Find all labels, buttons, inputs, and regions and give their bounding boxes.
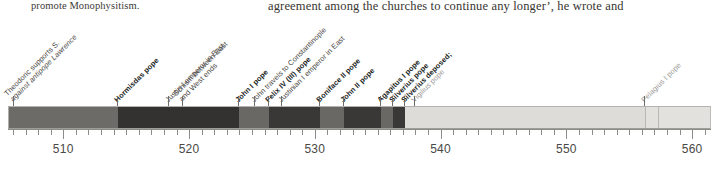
axis-minor-tick (453, 130, 454, 135)
timeline-segment (381, 107, 392, 128)
axis-minor-tick (114, 130, 115, 135)
axis-tick-label: 540 (430, 142, 451, 156)
timeline-segment (344, 107, 382, 128)
timeline-interior-rule (645, 107, 646, 128)
papal-timeline-chart: Theodoric supports S.against antipope La… (0, 0, 719, 171)
event-label-line: Theodoric supports S. (3, 28, 73, 98)
event-leader-line (168, 96, 169, 106)
timeline-segment (239, 107, 269, 128)
axis-minor-tick (604, 130, 605, 135)
axis-minor-tick (642, 130, 643, 135)
timeline-segment (645, 107, 711, 128)
timeline-segment (405, 107, 645, 128)
axis-tick-label: 560 (682, 142, 703, 156)
axis-major-tick (441, 130, 442, 139)
axis-major-tick (315, 130, 316, 139)
axis-minor-tick (491, 130, 492, 135)
axis-minor-tick (403, 130, 404, 135)
axis-minor-tick (327, 130, 328, 135)
event-leader-line (343, 96, 344, 106)
axis-minor-tick (365, 130, 366, 135)
axis-minor-tick (415, 130, 416, 135)
timeline-segment (9, 107, 118, 128)
event-label-line: against antipope Lawrence (9, 34, 79, 104)
event-leader-line (404, 96, 405, 106)
axis-minor-tick (126, 130, 127, 135)
axis-minor-tick (529, 130, 530, 135)
axis-minor-tick (277, 130, 278, 135)
axis-minor-tick (26, 130, 27, 135)
timeline-segment (320, 107, 344, 128)
axis-minor-tick (265, 130, 266, 135)
timeline-segment-band (8, 106, 711, 129)
axis-minor-tick (177, 130, 178, 135)
event-leader-line (380, 96, 381, 106)
axis-minor-tick (202, 130, 203, 135)
event-label-line: Hormisdas pope (113, 57, 161, 105)
axis-minor-tick (302, 130, 303, 135)
axis-tick-label: 550 (556, 142, 577, 156)
event-leader-line (392, 96, 393, 106)
event-label-line: Pelagius I pope (640, 61, 683, 104)
axis-minor-tick (13, 130, 14, 135)
event-leader-line (268, 96, 269, 106)
axis-minor-tick (680, 130, 681, 135)
event-leader-line (319, 96, 320, 106)
axis-minor-tick (503, 130, 504, 135)
axis-minor-tick (101, 130, 102, 135)
timeline-segment (269, 107, 319, 128)
axis-tick-label: 530 (304, 142, 325, 156)
axis-minor-tick (227, 130, 228, 135)
event-leader-line (644, 96, 645, 106)
axis-major-tick (63, 130, 64, 139)
axis-minor-tick (51, 130, 52, 135)
event-leader-line (254, 96, 255, 106)
axis-minor-tick (478, 130, 479, 135)
event-label: Hormisdas pope (113, 57, 161, 105)
axis-minor-tick (252, 130, 253, 135)
axis-tick-label: 520 (179, 142, 200, 156)
event-leader-line (414, 96, 415, 106)
axis-minor-tick (629, 130, 630, 135)
timeline-interior-rule (658, 107, 659, 128)
event-leader-line (281, 96, 282, 106)
timeline-segment (393, 107, 406, 128)
axis-major-tick (189, 130, 190, 139)
axis-minor-tick (151, 130, 152, 135)
axis-minor-tick (617, 130, 618, 135)
axis-minor-tick (554, 130, 555, 135)
event-leader-line (117, 96, 118, 106)
axis-minor-tick (239, 130, 240, 135)
axis-minor-tick (88, 130, 89, 135)
axis-minor-tick (353, 130, 354, 135)
event-label: Theodoric supports S.against antipope La… (3, 28, 79, 104)
axis-minor-tick (592, 130, 593, 135)
axis-minor-tick (428, 130, 429, 135)
event-label: Pelagius I pope (640, 61, 683, 104)
axis-minor-tick (214, 130, 215, 135)
axis-minor-tick (667, 130, 668, 135)
axis-minor-tick (654, 130, 655, 135)
axis-minor-tick (466, 130, 467, 135)
axis-major-tick (692, 130, 693, 139)
axis-minor-tick (390, 130, 391, 135)
axis-minor-tick (378, 130, 379, 135)
axis-minor-tick (705, 130, 706, 135)
event-leader-line (13, 96, 14, 106)
axis-minor-tick (76, 130, 77, 135)
event-label-line: Schism between East (172, 40, 230, 98)
axis-minor-tick (579, 130, 580, 135)
axis-minor-tick (541, 130, 542, 135)
axis-major-tick (566, 130, 567, 139)
axis-minor-tick (38, 130, 39, 135)
axis-minor-tick (516, 130, 517, 135)
timeline-segment (118, 107, 239, 128)
event-label: Schism between Eastand West ends (172, 40, 235, 103)
axis-tick-label: 510 (53, 142, 74, 156)
axis-minor-tick (340, 130, 341, 135)
event-leader-line (182, 96, 183, 106)
event-leader-line (238, 96, 239, 106)
axis-minor-tick (139, 130, 140, 135)
axis-minor-tick (290, 130, 291, 135)
axis-minor-tick (164, 130, 165, 135)
